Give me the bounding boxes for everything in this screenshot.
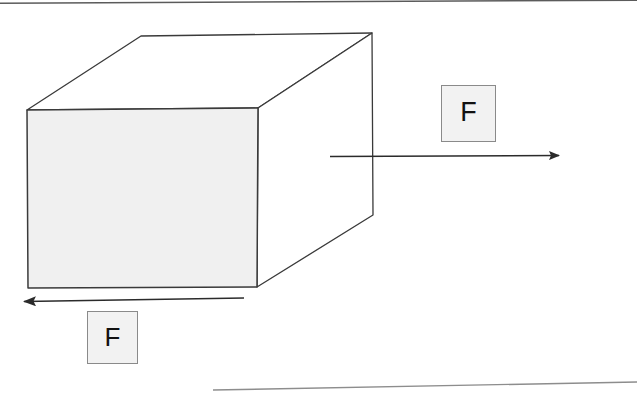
friction-force-label-box: F xyxy=(87,311,138,364)
physics-figure-canvas: F F xyxy=(0,0,637,393)
applied-force-label-box: F xyxy=(441,85,496,142)
friction-force-arrow xyxy=(24,298,244,302)
cube-front-face xyxy=(27,108,258,288)
applied-force-label-text: F xyxy=(460,99,477,126)
friction-force-label-text: F xyxy=(105,324,121,350)
frame-top-line xyxy=(0,0,637,3)
applied-force-arrow xyxy=(330,156,559,157)
frame-bottom-line xyxy=(213,382,637,390)
